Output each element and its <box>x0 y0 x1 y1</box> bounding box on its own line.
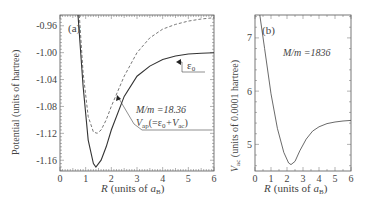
panel-b-frame <box>255 15 351 171</box>
x-tick-label: 6 <box>212 173 217 184</box>
x-tick-label: 0 <box>253 173 258 184</box>
y-tick-label: -0.96 <box>36 20 57 31</box>
panel-b-ylabel: Vac (units of 0.0001 hartree) <box>229 60 242 172</box>
x-tick-label: 0 <box>58 173 63 184</box>
arrow-icon <box>116 95 121 101</box>
svg-text:ε0: ε0 <box>187 59 196 73</box>
y-tick-label: -1.04 <box>36 74 57 85</box>
vap-annotation: M/m =18.36 Vap(=ε0+Vac) <box>116 95 212 130</box>
y-tick-label: -1.12 <box>36 128 57 139</box>
panel-a-y-tick-labels: -0.96-1.00-1.04-1.08-1.12-1.16 <box>36 20 57 165</box>
x-tick-label: 5 <box>333 173 338 184</box>
eps0-curve <box>78 15 214 167</box>
y-tick-label: -1.08 <box>36 101 57 112</box>
y-tick-label: 5 <box>247 139 252 150</box>
panel-b-ticks <box>255 15 351 171</box>
y-tick-label: -1.16 <box>36 155 57 166</box>
vap-curve <box>79 15 214 133</box>
panel-a: -0.96-1.00-1.04-1.08-1.12-1.16 0123456 (… <box>10 15 217 196</box>
panel-b: 567 0123456 (b) M/m =1836 Vac (units of … <box>229 15 354 196</box>
mass-ratio-a: M/m =18.36 <box>135 104 186 115</box>
figure: -0.96-1.00-1.04-1.08-1.12-1.16 0123456 (… <box>0 0 369 211</box>
y-tick-label: 6 <box>247 86 252 97</box>
vac-curve <box>260 15 351 165</box>
y-tick-label: 7 <box>247 32 252 43</box>
y-tick-label: -1.00 <box>36 47 57 58</box>
arrow-icon <box>176 59 181 65</box>
panel-a-label: (a) <box>68 22 81 35</box>
x-tick-label: 5 <box>186 173 191 184</box>
panel-a-xlabel: R(units of aB) <box>100 182 165 196</box>
x-tick-label: 6 <box>349 173 354 184</box>
mass-ratio-b: M/m =1836 <box>282 47 331 58</box>
x-tick-label: 1 <box>83 173 88 184</box>
eps0-annotation: ε0 <box>176 59 205 73</box>
panel-a-ylabel: Potential (units of hartree) <box>10 50 22 155</box>
panel-b-xlabel: R(units of aB) <box>263 182 328 196</box>
panel-a-ticks <box>60 15 214 171</box>
panel-a-frame <box>60 15 214 171</box>
panel-b-y-tick-labels: 567 <box>247 32 252 149</box>
panel-b-label: (b) <box>262 24 275 37</box>
vap-legend: Vap(=ε0+Vac) <box>136 117 188 130</box>
